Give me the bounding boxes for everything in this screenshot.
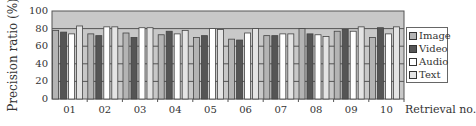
bar-text-05 (217, 29, 223, 99)
x-tick-label: 07 (266, 104, 296, 115)
bar-video-09 (342, 29, 348, 99)
bar-image-06 (229, 39, 235, 99)
bar-audio-07 (280, 34, 286, 99)
bar-audio-03 (139, 28, 145, 99)
legend-swatch-icon (409, 45, 417, 53)
bar-audio-09 (350, 31, 356, 99)
bar-image-08 (299, 29, 305, 99)
bar-video-02 (96, 36, 102, 99)
bar-text-09 (358, 27, 364, 99)
bar-text-04 (182, 30, 188, 99)
bar-image-10 (369, 37, 375, 99)
x-tick-label: 03 (125, 104, 155, 115)
legend-item-image: Image (409, 29, 445, 42)
bar-video-01 (61, 32, 67, 99)
bar-image-02 (88, 34, 94, 99)
bar-video-03 (131, 37, 137, 99)
legend-swatch-icon (409, 58, 417, 66)
bar-text-03 (147, 28, 153, 99)
legend: ImageVideoAudioText (406, 27, 448, 83)
bar-text-07 (288, 34, 294, 99)
x-tick-label: 09 (336, 104, 366, 115)
bar-text-10 (393, 27, 399, 99)
legend-label: Text (419, 69, 440, 80)
bar-text-02 (112, 27, 118, 99)
bar-video-08 (307, 34, 313, 99)
bar-video-10 (377, 28, 383, 99)
bar-image-01 (53, 30, 59, 99)
legend-item-audio: Audio (409, 55, 445, 68)
bar-text-01 (77, 26, 83, 99)
bar-audio-08 (315, 35, 321, 99)
legend-item-video: Video (409, 42, 445, 55)
x-tick-label: 05 (195, 104, 225, 115)
bar-audio-04 (174, 34, 180, 99)
bar-audio-06 (245, 33, 251, 99)
bar-video-04 (166, 31, 172, 99)
x-tick-label: 01 (55, 104, 85, 115)
bar-video-05 (201, 36, 207, 99)
bar-audio-05 (209, 29, 215, 99)
bar-image-09 (334, 31, 340, 99)
legend-label: Image (419, 30, 451, 41)
bar-text-08 (323, 37, 329, 99)
bar-audio-02 (104, 27, 110, 99)
x-tick-label: 06 (231, 104, 261, 115)
bar-text-06 (253, 29, 259, 99)
x-tick-label: 08 (301, 104, 331, 115)
x-tick-label: 02 (90, 104, 120, 115)
legend-swatch-icon (409, 71, 417, 79)
legend-item-text: Text (409, 68, 445, 81)
bar-image-04 (158, 35, 164, 99)
bar-audio-01 (69, 34, 75, 99)
legend-swatch-icon (409, 32, 417, 40)
bar-video-06 (237, 40, 243, 99)
bar-image-05 (193, 37, 199, 99)
x-axis-label: Retrieval no. (405, 103, 476, 116)
bar-video-07 (272, 36, 278, 99)
bar-image-07 (264, 36, 270, 99)
x-tick-label: 10 (371, 104, 401, 115)
legend-label: Video (419, 43, 448, 54)
x-tick-label: 04 (160, 104, 190, 115)
legend-label: Audio (419, 56, 448, 67)
bar-image-03 (123, 33, 129, 99)
bar-audio-10 (385, 34, 391, 99)
